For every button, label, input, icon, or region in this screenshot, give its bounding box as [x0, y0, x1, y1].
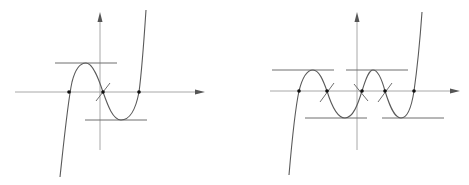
panel-left: [15, 10, 205, 177]
root-point: [101, 90, 105, 94]
x-axis-arrow-icon: [450, 89, 460, 94]
figure: [0, 0, 469, 185]
root-point: [383, 89, 387, 93]
panel-right: [270, 12, 460, 175]
root-point: [297, 89, 301, 93]
diagram-canvas: [0, 0, 469, 185]
inflection-tangent-line: [354, 84, 368, 101]
y-axis-arrow-icon: [355, 12, 360, 22]
y-axis-arrow-icon: [98, 12, 103, 22]
function-curve: [289, 12, 422, 175]
root-point: [360, 89, 364, 93]
x-axis-arrow-icon: [195, 90, 205, 95]
root-point: [325, 89, 329, 93]
root-point: [67, 90, 71, 94]
root-point: [412, 89, 416, 93]
root-point: [137, 90, 141, 94]
